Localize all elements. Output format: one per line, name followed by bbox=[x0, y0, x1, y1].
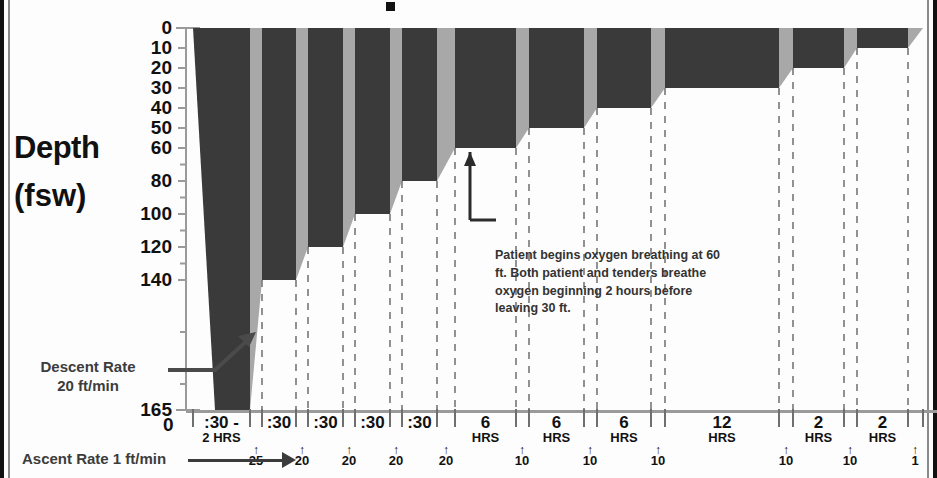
descent-rate-line-1: Descent Rate bbox=[8, 358, 168, 377]
ascent-marker-value-1: 20 bbox=[295, 453, 309, 468]
page-edge-left bbox=[0, 0, 4, 478]
descent-rate-note: Descent Rate 20 ft/min bbox=[8, 358, 168, 396]
segment-duration-unit-10: HRS bbox=[869, 431, 896, 445]
profile-plot-area bbox=[186, 28, 923, 410]
y-tick-label-80: 80 bbox=[151, 170, 172, 192]
decompression-profile-graphic bbox=[186, 28, 923, 410]
segment-duration-value-10: 2 bbox=[869, 414, 896, 431]
descent-rate-line-2: 20 ft/min bbox=[8, 377, 168, 396]
y-tick-label-20: 20 bbox=[151, 57, 172, 79]
ascent-rate-note: Ascent Rate 1 ft/min bbox=[22, 450, 166, 467]
segment-duration-2: :30 bbox=[313, 414, 338, 431]
segment-duration-0: :30 -2 HRS bbox=[202, 414, 240, 445]
page-edge-right bbox=[933, 0, 937, 478]
ascent-marker-value-2: 20 bbox=[342, 453, 356, 468]
segment-duration-10: 2HRS bbox=[869, 414, 896, 445]
y-tick-label-60: 60 bbox=[151, 137, 172, 159]
segment-duration-5: 6HRS bbox=[472, 414, 499, 445]
segment-duration-value-5: 6 bbox=[472, 414, 499, 431]
ascent-rate-arrow-head bbox=[282, 452, 296, 468]
ascent-marker-value-10: 1 bbox=[911, 453, 918, 468]
segment-duration-value-7: 6 bbox=[610, 414, 637, 431]
chart-frame: Depth (fsw) 010203040506080100120140165 … bbox=[0, 0, 937, 478]
segment-duration-value-1: :30 bbox=[267, 414, 292, 431]
y-tick-label-10: 10 bbox=[151, 37, 172, 59]
ascent-marker-value-7: 10 bbox=[651, 453, 665, 468]
segment-duration-1: :30 bbox=[267, 414, 292, 431]
segment-duration-unit-8: HRS bbox=[708, 431, 735, 445]
ascent-marker-value-5: 10 bbox=[515, 453, 529, 468]
segment-duration-unit-0: 2 HRS bbox=[202, 431, 240, 445]
page-rule-left bbox=[8, 0, 10, 478]
y-tick-label-30: 30 bbox=[151, 77, 172, 99]
y-axis-tick-labels: 010203040506080100120140165 bbox=[96, 0, 172, 478]
segment-duration-8: 12HRS bbox=[708, 414, 735, 445]
ascent-marker-value-6: 10 bbox=[583, 453, 597, 468]
page-rule-right bbox=[927, 0, 929, 478]
segment-duration-value-4: :30 bbox=[407, 414, 432, 431]
segment-duration-value-8: 12 bbox=[708, 414, 735, 431]
segment-duration-unit-9: HRS bbox=[805, 431, 832, 445]
segment-duration-7: 6HRS bbox=[610, 414, 637, 445]
segment-duration-3: :30 bbox=[360, 414, 385, 431]
x-axis-line bbox=[186, 410, 937, 413]
x-axis-origin-label: 0 bbox=[163, 414, 174, 436]
y-tick-label-0: 0 bbox=[161, 17, 172, 39]
segment-duration-value-2: :30 bbox=[313, 414, 338, 431]
oxygen-breathing-note: Patient begins oxygen breathing at 60 ft… bbox=[495, 247, 735, 318]
segment-duration-4: :30 bbox=[407, 414, 432, 431]
ascent-marker-value-8: 10 bbox=[779, 453, 793, 468]
segment-duration-value-6: 6 bbox=[543, 414, 570, 431]
segment-duration-unit-7: HRS bbox=[610, 431, 637, 445]
segment-duration-unit-5: HRS bbox=[472, 431, 499, 445]
ascent-marker-value-3: 20 bbox=[389, 453, 403, 468]
ascent-rate-arrow-line bbox=[188, 459, 286, 462]
segment-duration-unit-6: HRS bbox=[543, 431, 570, 445]
y-tick-label-100: 100 bbox=[140, 203, 172, 225]
y-tick-label-50: 50 bbox=[151, 117, 172, 139]
ascent-marker-value-4: 20 bbox=[439, 453, 453, 468]
title-crop-mark bbox=[386, 2, 395, 11]
y-tick-label-140: 140 bbox=[140, 269, 172, 291]
segment-duration-value-0: :30 - bbox=[202, 414, 240, 431]
segment-duration-9: 2HRS bbox=[805, 414, 832, 445]
segment-duration-value-9: 2 bbox=[805, 414, 832, 431]
y-tick-label-40: 40 bbox=[151, 97, 172, 119]
ascent-marker-value-9: 10 bbox=[843, 453, 857, 468]
y-tick-label-120: 120 bbox=[140, 236, 172, 258]
segment-duration-6: 6HRS bbox=[543, 414, 570, 445]
segment-duration-value-3: :30 bbox=[360, 414, 385, 431]
